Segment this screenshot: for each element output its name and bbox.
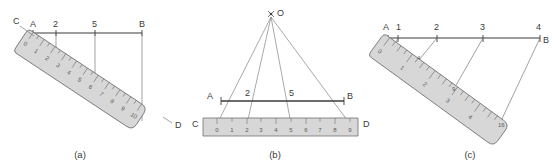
panel-a-caption: (a) — [74, 149, 86, 160]
panel-c-label-B: B — [543, 35, 549, 45]
panel-c-projector-4 — [419, 38, 437, 60]
panel-c-projector-9 — [455, 38, 483, 87]
panel-b-ray-2 — [247, 17, 271, 124]
panel-b-label-5: 5 — [289, 88, 294, 98]
panel-a-label-B: B — [139, 19, 145, 29]
panel-b-label-2: 2 — [245, 88, 250, 98]
panel-c-caption: (c) — [464, 149, 475, 160]
panel-b-caption: (b) — [269, 149, 281, 160]
panel-a-label-5: 5 — [92, 19, 97, 29]
panel-a: 0 1 2 3 4 5 6 7 8 9 10 C A 2 5 B D (a) — [13, 16, 182, 160]
panel-c-mark-16: 16 — [498, 122, 505, 128]
panel-c-ruler-body — [368, 33, 509, 146]
panel-c-label-A: A — [383, 22, 389, 32]
panel-a-label-C: C — [13, 16, 20, 26]
panel-b: O 0 1 — [192, 8, 370, 160]
diagram-svg: 0 1 2 3 4 5 6 7 8 9 10 C A 2 5 B D (a) — [0, 0, 556, 168]
panel-b-label-A: A — [207, 91, 213, 101]
panel-c: 0 1 2 3 4 4 9 16 A 1 2 3 4 B (c) — [368, 22, 549, 160]
panel-c-projector-16 — [500, 38, 540, 123]
panel-c-label-4: 4 — [536, 22, 541, 32]
panel-a-label-D: D — [175, 120, 182, 130]
panel-c-ruler: 0 1 2 3 4 — [368, 33, 509, 146]
figure-canvas: 0 1 2 3 4 5 6 7 8 9 10 C A 2 5 B D (a) — [0, 0, 556, 168]
panel-b-label-C: C — [192, 119, 199, 129]
panel-c-label-3: 3 — [480, 22, 485, 32]
panel-a-leader-D — [163, 117, 172, 123]
panel-b-ray-9 — [271, 17, 350, 124]
panel-b-label-B: B — [347, 91, 353, 101]
panel-b-label-O: O — [277, 8, 284, 18]
panel-b-ruler: 0 1 2 3 4 5 6 7 8 9 — [203, 118, 358, 136]
panel-b-label-D: D — [363, 119, 370, 129]
panel-a-ruler: 0 1 2 3 4 5 6 7 8 9 10 — [13, 29, 147, 130]
panel-a-label-A: A — [30, 19, 36, 29]
panel-a-label-2: 2 — [53, 19, 58, 29]
panel-b-ray-0 — [217, 17, 271, 124]
panel-b-ray-5 — [271, 17, 291, 124]
panel-c-label-2: 2 — [434, 22, 439, 32]
panel-c-label-1: 1 — [396, 22, 401, 32]
